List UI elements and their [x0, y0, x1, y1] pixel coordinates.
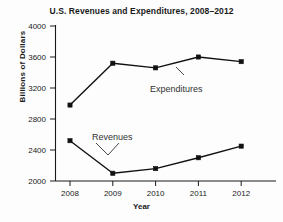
y-axis: 400036003200280024002000 [28, 22, 55, 186]
revenues-marker-2012 [239, 144, 243, 148]
annotation-group: Expenditures Revenues [92, 67, 203, 155]
x-tick-label: 2008 [61, 189, 79, 198]
y-tick-label: 2400 [28, 146, 46, 155]
expenditures-marker-2012 [239, 60, 243, 64]
expenditures-marker-2011 [196, 55, 200, 59]
expenditures-marker-2009 [111, 61, 115, 65]
y-tick-label: 3600 [28, 53, 46, 62]
x-tick-group: 20082009201020112012 [61, 181, 251, 198]
x-tick-label: 2010 [147, 189, 165, 198]
revenues-marker-2010 [154, 167, 158, 171]
y-tick-label: 4000 [28, 22, 46, 31]
line-chart: U.S. Revenues and Expenditures, 2008–201… [0, 0, 283, 222]
x-axis: 20082009201020112012 [56, 181, 277, 198]
expenditures-leader-line [176, 67, 184, 75]
revenues-marker-2011 [196, 156, 200, 160]
x-tick-label: 2011 [190, 189, 208, 198]
revenues-annotation-label: Revenues [92, 132, 133, 142]
expenditures-annotation-label: Expenditures [150, 84, 203, 94]
expenditures-marker-2008 [68, 103, 72, 107]
data-series-group [68, 55, 243, 175]
expenditures-marker-2010 [154, 66, 158, 70]
revenues-marker-2009 [111, 171, 115, 175]
y-tick-group: 400036003200280024002000 [28, 22, 55, 186]
y-tick-label: 3200 [28, 84, 46, 93]
plot-area: 400036003200280024002000 200820092010201… [0, 0, 283, 222]
y-tick-label: 2000 [28, 177, 46, 186]
revenues-leader-line [96, 143, 119, 155]
y-tick-label: 2800 [28, 115, 46, 124]
x-tick-label: 2012 [232, 189, 250, 198]
x-tick-label: 2009 [104, 189, 122, 198]
revenues-marker-2008 [68, 139, 72, 143]
expenditures-line [70, 57, 241, 105]
